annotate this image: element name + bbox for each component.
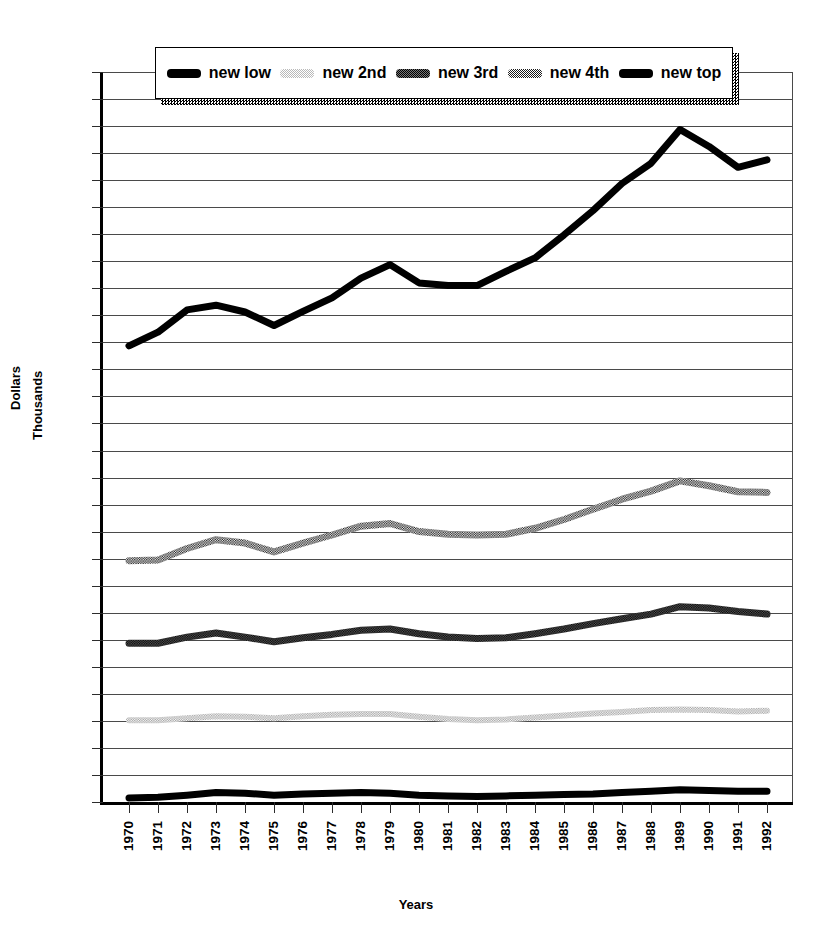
legend-item-new-top[interactable]: new top bbox=[619, 64, 721, 82]
series-line-new-top bbox=[129, 130, 767, 346]
x-tick-label: 1973 bbox=[208, 821, 223, 851]
chart-canvas: Dollars Thousands 6101418222630343842465… bbox=[0, 0, 832, 933]
x-tick-mark bbox=[245, 802, 246, 813]
x-tick-mark bbox=[680, 802, 681, 813]
y-tick-mark bbox=[92, 613, 103, 614]
y-tick-mark bbox=[92, 748, 103, 749]
y-tick-mark bbox=[92, 99, 103, 100]
y-tick-mark bbox=[92, 207, 103, 208]
x-tick-label: 1970 bbox=[121, 821, 136, 851]
x-tick-label: 1983 bbox=[498, 821, 513, 851]
legend-label: new 2nd bbox=[322, 64, 386, 82]
x-tick-label: 1986 bbox=[585, 821, 600, 851]
x-tick-mark bbox=[709, 802, 710, 813]
x-tick-label: 1977 bbox=[324, 821, 339, 851]
y-tick-mark bbox=[92, 396, 103, 397]
x-tick-mark bbox=[593, 802, 594, 813]
x-tick-mark bbox=[448, 802, 449, 813]
y-tick-mark bbox=[92, 342, 103, 343]
x-tick-mark bbox=[738, 802, 739, 813]
x-tick-label: 1989 bbox=[672, 821, 687, 851]
legend-item-new-4th[interactable]: new 4th bbox=[508, 64, 610, 82]
y-tick-mark bbox=[92, 451, 103, 452]
x-tick-mark bbox=[622, 802, 623, 813]
y-axis-title-line-2: Thousands bbox=[30, 371, 45, 440]
legend-label: new 4th bbox=[550, 64, 610, 82]
y-axis-title-line-1: Dollars bbox=[8, 366, 23, 410]
y-tick-mark bbox=[92, 694, 103, 695]
x-tick-mark bbox=[419, 802, 420, 813]
x-tick-mark bbox=[767, 802, 768, 813]
x-tick-label: 1984 bbox=[527, 821, 542, 851]
series-line-new-low bbox=[129, 790, 767, 798]
y-tick-mark bbox=[92, 369, 103, 370]
y-tick-mark bbox=[92, 640, 103, 641]
x-tick-mark bbox=[477, 802, 478, 813]
y-tick-mark bbox=[92, 667, 103, 668]
x-tick-mark bbox=[564, 802, 565, 813]
y-tick-mark bbox=[92, 288, 103, 289]
x-tick-label: 1979 bbox=[382, 821, 397, 851]
x-tick-mark bbox=[187, 802, 188, 813]
y-tick-mark bbox=[92, 153, 103, 154]
x-tick-mark bbox=[506, 802, 507, 813]
x-tick-label: 1985 bbox=[556, 821, 571, 851]
x-tick-label: 1975 bbox=[266, 821, 281, 851]
x-tick-mark bbox=[361, 802, 362, 813]
y-tick-mark bbox=[92, 721, 103, 722]
legend-item-new-low[interactable]: new low bbox=[167, 64, 271, 82]
legend-swatch-icon bbox=[508, 69, 542, 78]
x-tick-label: 1991 bbox=[730, 821, 745, 851]
legend-swatch-icon bbox=[167, 69, 201, 78]
x-tick-mark bbox=[332, 802, 333, 813]
y-tick-mark bbox=[92, 505, 103, 506]
y-tick-mark bbox=[92, 261, 103, 262]
legend-label: new top bbox=[661, 64, 721, 82]
y-tick-mark bbox=[92, 559, 103, 560]
legend-item-new-3rd[interactable]: new 3rd bbox=[396, 64, 498, 82]
series-layer bbox=[103, 72, 793, 802]
chart-legend: new lownew 2ndnew 3rdnew 4thnew top bbox=[155, 47, 733, 99]
x-tick-label: 1980 bbox=[411, 821, 426, 851]
legend-swatch-icon bbox=[280, 69, 314, 78]
y-tick-mark bbox=[92, 532, 103, 533]
y-tick-mark bbox=[92, 126, 103, 127]
x-tick-label: 1972 bbox=[179, 821, 194, 851]
y-tick-mark bbox=[92, 802, 103, 803]
x-tick-label: 1978 bbox=[353, 821, 368, 851]
x-axis-title: Years bbox=[0, 897, 832, 912]
x-tick-label: 1971 bbox=[150, 821, 165, 851]
y-tick-mark bbox=[92, 478, 103, 479]
x-tick-mark bbox=[535, 802, 536, 813]
legend-label: new 3rd bbox=[438, 64, 498, 82]
plot-area: 6101418222630343842465054586266707478828… bbox=[100, 72, 793, 805]
y-tick-mark bbox=[92, 72, 103, 73]
y-tick-mark bbox=[92, 315, 103, 316]
y-tick-mark bbox=[92, 586, 103, 587]
x-tick-mark bbox=[274, 802, 275, 813]
y-tick-mark bbox=[92, 423, 103, 424]
x-tick-mark bbox=[390, 802, 391, 813]
legend-swatch-icon bbox=[619, 69, 653, 78]
x-tick-label: 1992 bbox=[759, 821, 774, 851]
x-tick-mark bbox=[158, 802, 159, 813]
legend-item-new-2nd[interactable]: new 2nd bbox=[280, 64, 386, 82]
x-tick-label: 1974 bbox=[237, 821, 252, 851]
series-line-new-3rd bbox=[129, 607, 767, 644]
x-tick-label: 1981 bbox=[440, 821, 455, 851]
y-tick-mark bbox=[92, 234, 103, 235]
x-tick-label: 1987 bbox=[614, 821, 629, 851]
legend-swatch-icon bbox=[396, 69, 430, 78]
x-tick-label: 1988 bbox=[643, 821, 658, 851]
series-line-new-2nd bbox=[129, 709, 767, 720]
plot-inner: 6101418222630343842465054586266707478828… bbox=[103, 72, 793, 802]
x-tick-label: 1976 bbox=[295, 821, 310, 851]
legend-label: new low bbox=[209, 64, 271, 82]
x-tick-mark bbox=[129, 802, 130, 813]
x-tick-mark bbox=[303, 802, 304, 813]
series-line-new-4th bbox=[129, 481, 767, 561]
x-tick-mark bbox=[651, 802, 652, 813]
x-tick-mark bbox=[216, 802, 217, 813]
y-tick-mark bbox=[92, 180, 103, 181]
x-tick-label: 1990 bbox=[701, 821, 716, 851]
